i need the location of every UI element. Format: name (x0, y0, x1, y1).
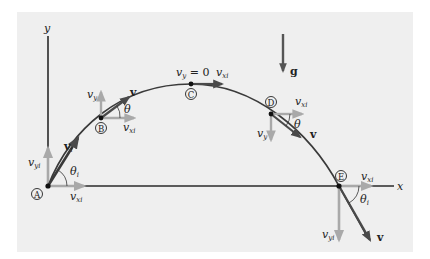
point-c-dot (189, 82, 194, 87)
x-axis-label: x (397, 180, 404, 193)
theta-label-d: θ (294, 118, 301, 131)
svg-text:E: E (338, 172, 344, 182)
vy-zero-label: vy = 0 (176, 66, 209, 80)
point-b-dot (99, 116, 104, 121)
v-label-b: v (129, 86, 137, 99)
point-e-dot (336, 183, 341, 188)
point-a-dot (45, 183, 50, 188)
svg-text:A: A (33, 190, 41, 200)
v-label-e: v (376, 231, 384, 244)
gravity-label: g (290, 65, 298, 78)
point-d-dot (269, 112, 274, 117)
svg-text:D: D (268, 98, 275, 108)
projectile-diagram: y x g A vi vyi vxi θi B v vy (0, 0, 430, 259)
v-label-d: v (309, 128, 317, 141)
svg-text:C: C (188, 90, 195, 100)
svg-text:B: B (98, 124, 104, 134)
theta-label-b: θ (124, 103, 131, 116)
y-axis-label: y (43, 22, 51, 35)
diagram-panel (17, 12, 413, 252)
